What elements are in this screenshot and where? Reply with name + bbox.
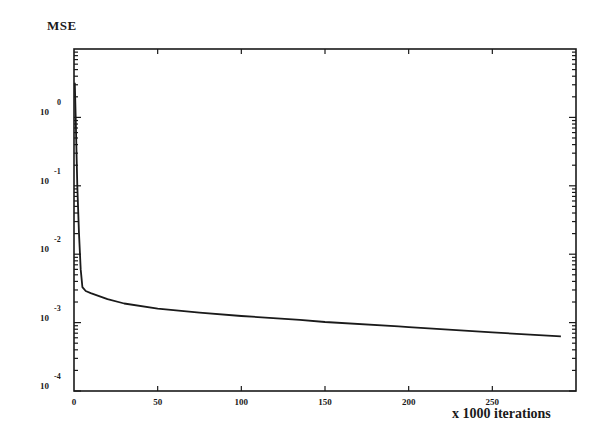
plot-frame	[74, 49, 576, 391]
x-tick-label: 250	[486, 397, 500, 407]
chart-canvas	[0, 0, 609, 447]
mse-curve	[75, 83, 561, 336]
y-tick-label: 10-3	[40, 313, 49, 323]
y-tick-label: 10-2	[40, 244, 49, 254]
x-axis-label: x 1000 iterations	[452, 406, 551, 422]
y-tick-label: 10-4	[40, 381, 49, 391]
x-tick-label: 200	[402, 397, 416, 407]
y-axis-label: MSE	[47, 18, 77, 34]
y-tick-label: 100	[40, 107, 49, 117]
x-tick-label: 100	[235, 397, 249, 407]
y-tick-label: 10-1	[40, 176, 49, 186]
x-tick-label: 50	[153, 397, 162, 407]
x-tick-label: 150	[318, 397, 332, 407]
x-tick-label: 0	[72, 397, 77, 407]
